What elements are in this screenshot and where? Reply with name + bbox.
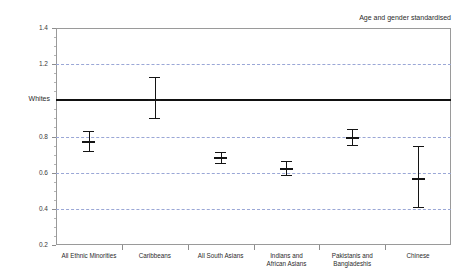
whites-reference-line	[56, 99, 451, 101]
x-axis-tick	[122, 245, 123, 250]
gridline	[56, 209, 451, 210]
chart-container: Age and gender standardised 1.41.20.80.6…	[0, 0, 475, 277]
y-axis-tick	[52, 173, 56, 174]
error-bar-cap-upper	[83, 131, 94, 132]
y-axis-tick-label: 0.4	[20, 205, 48, 212]
data-point-marker	[346, 137, 359, 139]
y-axis-minor-tick	[54, 55, 56, 56]
y-axis-minor-tick	[54, 155, 56, 156]
y-axis-minor-tick	[54, 46, 56, 47]
y-axis-tick	[52, 209, 56, 210]
y-axis-tick-label: 1.2	[20, 60, 48, 67]
y-axis-minor-tick	[54, 127, 56, 128]
y-axis-minor-tick	[54, 236, 56, 237]
x-axis-tick	[319, 245, 320, 250]
error-bar-cap-upper	[215, 152, 226, 153]
x-axis-tick	[254, 245, 255, 250]
error-bar-cap-upper	[149, 77, 160, 78]
whites-reference-label: Whites	[0, 95, 50, 102]
y-axis-tick	[52, 137, 56, 138]
y-axis-minor-tick	[54, 109, 56, 110]
y-axis-minor-tick	[54, 73, 56, 74]
x-axis-category-label: Indians andAfrican Asians	[254, 252, 320, 268]
y-axis-minor-tick	[54, 164, 56, 165]
y-axis-tick	[52, 245, 56, 246]
y-axis-minor-tick	[54, 182, 56, 183]
data-point-marker	[82, 141, 95, 143]
y-axis-minor-tick	[54, 82, 56, 83]
y-axis-minor-tick	[54, 146, 56, 147]
error-bar-cap-lower	[281, 175, 292, 176]
y-axis-minor-tick	[54, 218, 56, 219]
gridline	[56, 64, 451, 65]
error-bar-cap-upper	[413, 146, 424, 147]
error-bar-cap-lower	[215, 163, 226, 164]
y-axis-minor-tick	[54, 118, 56, 119]
y-axis-tick	[52, 64, 56, 65]
x-axis-tick	[385, 245, 386, 250]
y-axis-minor-tick	[54, 200, 56, 201]
x-axis-category-label: Chinese	[385, 252, 451, 260]
y-axis-tick-label: 1.4	[20, 24, 48, 31]
y-axis-tick-label: 0.8	[20, 133, 48, 140]
y-axis-minor-tick	[54, 191, 56, 192]
error-bar-cap-upper	[347, 129, 358, 130]
y-axis-minor-tick	[54, 37, 56, 38]
gridline	[56, 137, 451, 138]
y-axis-tick	[52, 28, 56, 29]
x-axis-category-label: Pakistanis andBangladeshis	[319, 252, 385, 268]
error-bar-line	[418, 146, 419, 207]
y-axis-minor-tick	[54, 227, 56, 228]
error-bar-line	[155, 77, 156, 119]
x-axis-category-label: All South Asians	[188, 252, 254, 260]
y-axis-tick-label: 0.2	[20, 241, 48, 248]
y-axis-minor-tick	[54, 91, 56, 92]
chart-annotation: Age and gender standardised	[359, 14, 451, 21]
data-point-marker	[412, 178, 425, 180]
error-bar-cap-lower	[413, 207, 424, 208]
x-axis-tick	[188, 245, 189, 250]
gridline	[56, 173, 451, 174]
error-bar-cap-lower	[347, 145, 358, 146]
y-axis-tick-label: 0.6	[20, 169, 48, 176]
data-point-marker	[214, 157, 227, 159]
error-bar-cap-upper	[281, 161, 292, 162]
x-axis-category-label: Caribbeans	[122, 252, 188, 260]
error-bar-cap-lower	[149, 118, 160, 119]
data-point-marker	[280, 168, 293, 170]
error-bar-cap-lower	[83, 151, 94, 152]
data-point-marker	[148, 99, 161, 101]
x-axis-category-label: All Ethnic Minorities	[56, 252, 122, 260]
